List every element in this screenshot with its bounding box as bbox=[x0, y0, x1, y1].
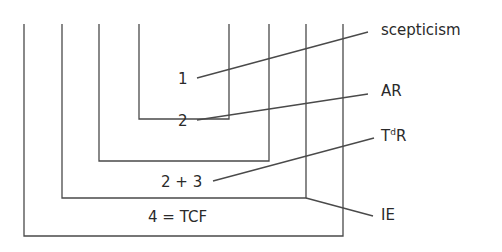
box-2-label: 2 bbox=[178, 114, 188, 129]
leader-tdr bbox=[213, 138, 374, 181]
callout-ar: AR bbox=[381, 84, 402, 99]
callout-scepticism: scepticism bbox=[381, 23, 461, 38]
leader-ie bbox=[306, 198, 373, 216]
box-4-label: 4 = TCF bbox=[148, 210, 207, 225]
callout-tdr: TdR bbox=[381, 129, 406, 144]
box-3-label: 2 + 3 bbox=[161, 175, 202, 190]
callout-tdr-base: T bbox=[381, 127, 390, 145]
callout-tdr-end: R bbox=[396, 127, 406, 145]
callout-tdr-superscript: d bbox=[390, 127, 396, 137]
box-2-outline bbox=[99, 24, 269, 161]
box-4-outline bbox=[24, 24, 343, 236]
box-1-label: 1 bbox=[178, 72, 188, 87]
callout-ie: IE bbox=[381, 208, 395, 223]
